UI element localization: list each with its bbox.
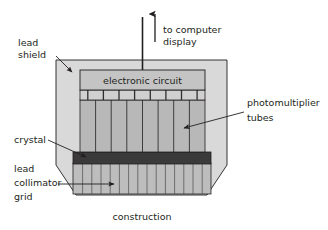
lead-collimator-label-line3: grid	[14, 191, 33, 202]
gamma-camera-diagram: electronic circuit to computer display l…	[0, 0, 328, 230]
lead-shield-label-line1: lead	[18, 37, 38, 48]
pmt-connector-strip	[80, 90, 205, 100]
diagram-canvas: electronic circuit to computer display l…	[0, 0, 328, 230]
photomultiplier-label-line1: photomultiplier	[247, 97, 320, 108]
scintillation-crystal	[73, 152, 211, 164]
photomultiplier-label-line2: tubes	[247, 112, 274, 123]
lead-collimator-grid	[73, 163, 211, 194]
to-computer-display-label-line2: display	[163, 36, 197, 47]
photomultiplier-tube-array	[80, 100, 205, 152]
lead-collimator-label-line1: lead	[14, 163, 34, 174]
lead-collimator-label-line2: collimator	[14, 177, 62, 188]
electronic-circuit-box: electronic circuit	[80, 70, 205, 90]
collimator-body	[73, 163, 211, 194]
connector-strip-body	[80, 90, 205, 100]
figure-caption: construction	[112, 211, 171, 222]
crystal-label: crystal	[14, 134, 46, 145]
electronic-circuit-label: electronic circuit	[103, 75, 182, 86]
to-computer-display-label-line1: to computer	[163, 24, 221, 35]
lead-shield-label-line2: shield	[18, 49, 46, 60]
